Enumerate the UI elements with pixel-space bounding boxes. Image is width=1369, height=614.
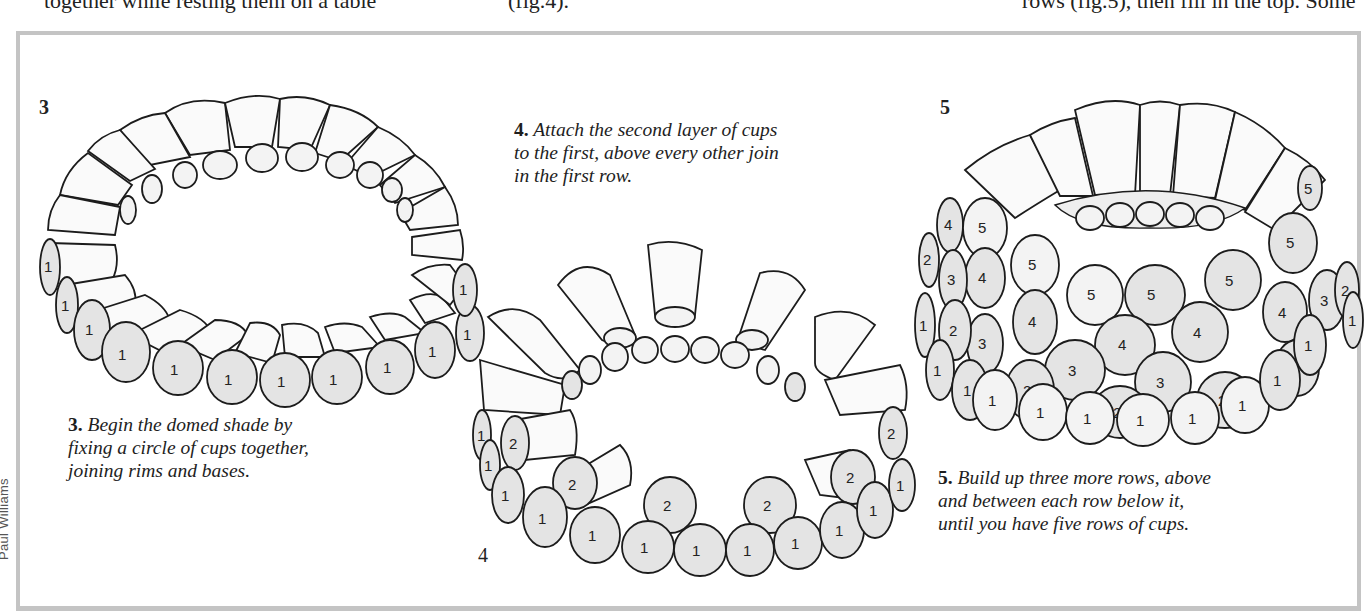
svg-text:1: 1 bbox=[869, 502, 877, 519]
figure-4-caption-line-2: to the first, above every other join bbox=[514, 142, 779, 163]
body-text-middle: (fig.4). bbox=[508, 0, 569, 14]
figure-4-number: 4 bbox=[478, 544, 488, 567]
svg-text:2: 2 bbox=[663, 497, 671, 514]
svg-text:4: 4 bbox=[1193, 324, 1201, 341]
svg-text:1: 1 bbox=[44, 258, 52, 275]
svg-text:1: 1 bbox=[1083, 410, 1091, 427]
svg-text:2: 2 bbox=[509, 435, 517, 452]
svg-text:1: 1 bbox=[1188, 410, 1196, 427]
svg-text:1: 1 bbox=[224, 371, 232, 388]
svg-text:1: 1 bbox=[501, 487, 509, 504]
svg-text:1: 1 bbox=[835, 522, 843, 539]
svg-text:1: 1 bbox=[459, 281, 467, 298]
svg-text:3: 3 bbox=[947, 271, 955, 288]
figure-5-caption-line-3: until you have five rows of cups. bbox=[938, 513, 1189, 534]
figure-5-caption-number: 5. bbox=[938, 467, 953, 488]
svg-text:4: 4 bbox=[1028, 313, 1036, 330]
figure-4-caption-line-3: in the first row. bbox=[514, 165, 632, 186]
svg-text:1: 1 bbox=[588, 527, 596, 544]
svg-text:5: 5 bbox=[1225, 272, 1233, 289]
svg-text:1: 1 bbox=[743, 542, 751, 559]
figure-3-caption-line-2: fixing a circle of cups together, bbox=[68, 437, 309, 458]
back-cups bbox=[480, 242, 907, 415]
svg-text:1: 1 bbox=[1348, 312, 1356, 329]
svg-text:5: 5 bbox=[978, 219, 986, 236]
svg-text:4: 4 bbox=[1278, 304, 1286, 321]
figure-3-cup-ring-illustration: 1 1 1 1 1 1 1 1 1 1 1 1 bbox=[40, 95, 490, 385]
svg-text:1: 1 bbox=[538, 510, 546, 527]
figure-5-five-row-dome-illustration: 4 5 5 5 5 5 5 5 4 4 4 4 4 3 3 3 3 3 bbox=[915, 100, 1360, 435]
svg-text:5: 5 bbox=[1304, 180, 1312, 197]
svg-text:1: 1 bbox=[61, 297, 69, 314]
svg-text:2: 2 bbox=[568, 476, 576, 493]
back-cups bbox=[48, 96, 463, 260]
figure-5-caption: 5. Build up three more rows, above and b… bbox=[938, 466, 1211, 535]
figure-5-caption-line-1: Build up three more rows, above bbox=[958, 467, 1211, 488]
svg-text:1: 1 bbox=[963, 382, 971, 399]
svg-text:1: 1 bbox=[1036, 404, 1044, 421]
svg-text:1: 1 bbox=[477, 427, 485, 444]
svg-text:3: 3 bbox=[1320, 292, 1328, 309]
figure-4-caption: 4. Attach the second layer of cups to th… bbox=[514, 118, 779, 187]
svg-text:3: 3 bbox=[978, 335, 986, 352]
svg-text:1: 1 bbox=[329, 371, 337, 388]
figure-3-caption-line-3: joining rims and bases. bbox=[68, 460, 250, 481]
svg-text:2: 2 bbox=[846, 469, 854, 486]
svg-text:1: 1 bbox=[1273, 372, 1281, 389]
svg-text:5: 5 bbox=[1286, 234, 1294, 251]
svg-text:1: 1 bbox=[919, 317, 927, 334]
svg-text:2: 2 bbox=[887, 425, 895, 442]
svg-text:1: 1 bbox=[170, 361, 178, 378]
figure-3-caption: 3. Begin the domed shade by fixing a cir… bbox=[68, 413, 309, 482]
svg-text:1: 1 bbox=[85, 321, 93, 338]
svg-text:4: 4 bbox=[978, 269, 986, 286]
svg-text:1: 1 bbox=[988, 392, 996, 409]
svg-text:4: 4 bbox=[1118, 336, 1126, 353]
svg-text:3: 3 bbox=[1068, 362, 1076, 379]
svg-text:5: 5 bbox=[1028, 256, 1036, 273]
body-text-right: rows (fig.5), then fill in the top. Some bbox=[1022, 0, 1356, 14]
svg-text:2: 2 bbox=[923, 251, 931, 268]
svg-text:3: 3 bbox=[1156, 374, 1164, 391]
svg-text:1: 1 bbox=[277, 373, 285, 390]
svg-text:1: 1 bbox=[692, 542, 700, 559]
svg-text:1: 1 bbox=[791, 535, 799, 552]
figure-3-caption-number: 3. bbox=[68, 414, 83, 435]
svg-text:2: 2 bbox=[949, 322, 957, 339]
svg-text:1: 1 bbox=[933, 362, 941, 379]
body-text-left: together while resting them on a table bbox=[44, 0, 376, 14]
svg-text:1: 1 bbox=[640, 539, 648, 556]
svg-text:1: 1 bbox=[484, 457, 492, 474]
svg-text:1: 1 bbox=[383, 359, 391, 376]
figure-4-caption-number: 4. bbox=[514, 119, 529, 140]
illustrator-credit: Paul Williams bbox=[0, 478, 11, 560]
figure-5-caption-line-2: and between each row below it, bbox=[938, 490, 1184, 511]
svg-text:1: 1 bbox=[118, 346, 126, 363]
svg-text:2: 2 bbox=[763, 497, 771, 514]
figure-4-two-layer-ring-illustration: 2 2 2 2 2 2 1 1 1 1 1 1 1 1 1 1 1 bbox=[470, 245, 910, 565]
svg-text:1: 1 bbox=[896, 477, 904, 494]
body-text-fragment: together while resting them on a table (… bbox=[0, 0, 1369, 16]
svg-text:5: 5 bbox=[1087, 286, 1095, 303]
svg-text:1: 1 bbox=[1136, 412, 1144, 429]
svg-text:5: 5 bbox=[1147, 286, 1155, 303]
figure-4-caption-line-1: Attach the second layer of cups bbox=[533, 119, 777, 140]
figure-3-caption-line-1: Begin the domed shade by bbox=[88, 414, 293, 435]
svg-text:1: 1 bbox=[428, 343, 436, 360]
top-cups bbox=[965, 101, 1325, 230]
front-cups-row-1: 1 1 1 1 1 1 1 1 1 1 1 1 bbox=[40, 239, 484, 407]
svg-text:1: 1 bbox=[1238, 397, 1246, 414]
svg-text:4: 4 bbox=[944, 216, 952, 233]
svg-text:1: 1 bbox=[1304, 337, 1312, 354]
